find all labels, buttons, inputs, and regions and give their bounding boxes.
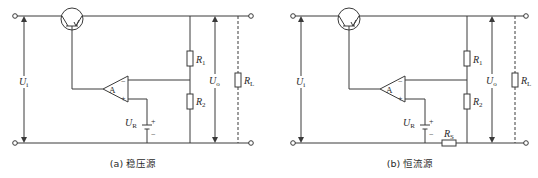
svg-text:−: − [121,77,126,86]
resistor-r1 [464,51,470,66]
r2-label: R2 [472,96,483,109]
output-voltage-label: Uo [209,75,220,88]
input-terminal-bottom [13,141,18,146]
ref-voltage-label: UR [403,117,415,130]
svg-text:A: A [109,85,116,95]
input-terminal-bottom [291,141,296,146]
svg-text:−: − [398,77,403,86]
rl-label: RL [520,75,531,88]
svg-text:+: + [121,94,126,103]
input-terminal-top [291,14,296,19]
panel-a-voltage-regulator: A − + + − UR R1 R2 Ui Uo [13,8,255,169]
reference-battery-icon: + − [420,117,434,143]
reference-battery-icon: + − [142,117,156,143]
rs-label: RS [443,128,454,141]
svg-text:+: + [398,94,403,103]
op-amp-icon: A − + [103,76,128,103]
caption-a: (a) 稳压源 [110,158,156,169]
r1-label: R1 [195,54,206,67]
svg-text:−: − [429,130,434,139]
resistor-r1 [187,51,193,66]
output-voltage-label: Uo [486,75,497,88]
svg-text:+: + [151,117,156,126]
svg-text:+: + [429,117,434,126]
input-voltage-label: Ui [296,76,305,89]
resistor-r2 [187,94,193,109]
transistor-icon [61,8,83,89]
caption-b: (b) 恒流源 [387,158,433,169]
resistor-r2 [464,94,470,109]
load-resistor-rl [235,73,241,87]
r2-label: R2 [195,96,206,109]
output-terminal-top [249,14,254,19]
output-terminal-top [524,14,529,19]
output-terminal-bottom [249,141,254,146]
panel-b-current-source: RS A − + + − UR [291,8,532,169]
svg-text:A: A [386,85,393,95]
svg-text:−: − [151,130,156,139]
transistor-icon [338,8,360,89]
input-terminal-top [13,14,18,19]
input-voltage-label: Ui [19,76,28,89]
op-amp-icon: A − + [380,76,405,103]
load-resistor-rl [512,73,518,87]
rl-label: RL [243,75,254,88]
circuit-figure: A − + + − UR R1 R2 Ui Uo [0,0,538,178]
output-terminal-bottom [524,141,529,146]
ref-voltage-label: UR [125,117,137,130]
r1-label: R1 [472,54,483,67]
